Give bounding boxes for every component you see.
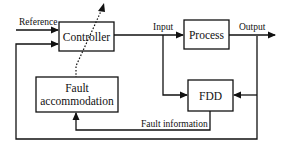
- output-label: Output: [239, 22, 266, 32]
- process-block: Process: [184, 20, 229, 49]
- fault-tolerant-control-diagram: Reference Controller Input Process Outpu…: [0, 0, 287, 146]
- fault-information-label: Fault information: [141, 119, 208, 129]
- reference-label: Reference: [19, 17, 58, 27]
- controller-label: Controller: [63, 31, 110, 43]
- fault-accommodation-label-line2: accommodation: [40, 95, 114, 107]
- input-label: Input: [153, 22, 173, 32]
- controller-block: Controller: [59, 22, 114, 51]
- reconfiguration-arrowhead-icon: [98, 3, 105, 12]
- fdd-label: FDD: [199, 90, 222, 102]
- process-label: Process: [189, 29, 225, 41]
- fdd-block: FDD: [188, 80, 233, 111]
- fault-accommodation-block: Fault accommodation: [36, 77, 118, 112]
- fault-accommodation-label-line1: Fault: [65, 82, 89, 94]
- reference-signal: Reference: [16, 17, 58, 30]
